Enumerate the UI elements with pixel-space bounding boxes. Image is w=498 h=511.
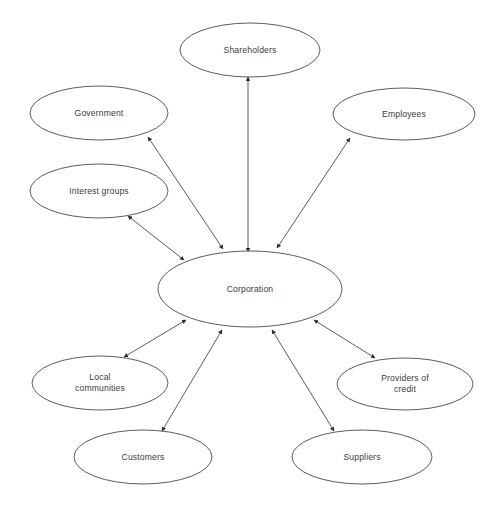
- edge-interest-groups: [128, 216, 184, 260]
- node-shareholders[interactable]: [180, 23, 320, 77]
- edge-suppliers: [272, 330, 334, 431]
- node-corporation[interactable]: [158, 251, 342, 327]
- stakeholder-diagram: CorporationShareholdersGovernmentEmploye…: [0, 0, 498, 511]
- diagram-canvas: [0, 0, 498, 511]
- edge-customers: [162, 330, 222, 431]
- node-customers[interactable]: [74, 430, 212, 484]
- edge-providers-credit: [314, 320, 375, 358]
- node-government[interactable]: [30, 86, 168, 140]
- node-employees[interactable]: [333, 88, 475, 140]
- edge-local-communities: [124, 320, 186, 357]
- edge-employees: [277, 138, 350, 248]
- node-local-communities[interactable]: [32, 356, 168, 410]
- node-providers-credit[interactable]: [337, 358, 473, 410]
- nodes-layer: [30, 23, 475, 484]
- node-interest-groups[interactable]: [30, 164, 168, 218]
- node-suppliers[interactable]: [292, 430, 432, 484]
